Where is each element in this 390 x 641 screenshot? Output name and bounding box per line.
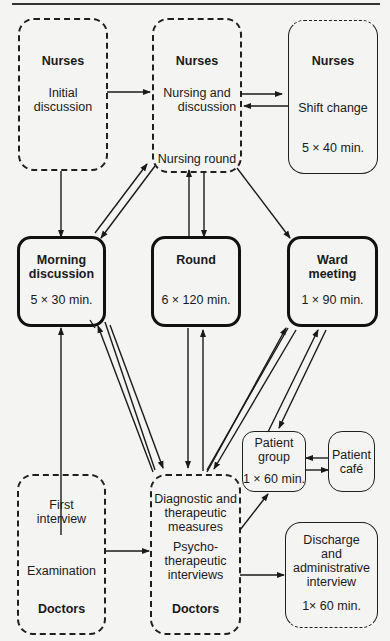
activity-label: Initial discussion [18,86,108,114]
title-line1: Ward [290,253,375,267]
line1: First [19,498,104,512]
title-label: Round [154,253,238,267]
duration-label: 6 × 120 min. [154,293,238,307]
duration-label: 1× 60 min. [286,599,377,613]
role-label: Doctors [19,602,104,616]
morning-discussion-box: Morning discussion 5 × 30 min. [17,236,106,327]
nurses-shift-change-box: Nurses Shift change 5 × 40 min. [288,20,378,174]
line4: interview [286,575,377,589]
title-line2: discussion [20,267,103,281]
line3: measures [152,520,239,534]
psy-line3: interviews [152,568,239,582]
ward-meeting-box: Ward meeting 1 × 90 min. [287,236,378,327]
duration-label: 5 × 40 min. [289,141,377,155]
nurses-nursing-box: Nurses Nursing and discussion Nursing ro… [152,18,242,173]
line1: Patient [243,436,305,450]
title-line2: meeting [290,267,375,281]
activity-label: Shift change [289,101,377,115]
line2: and [286,547,377,561]
round-box: Round 6 × 120 min. [151,236,241,327]
title-line1: Morning [20,253,103,267]
role-label: Nurses [289,54,377,68]
activity-line1: Nursing and [154,86,240,100]
examination-label: Examination [19,564,104,578]
psy-line2: therapeutic [152,554,239,568]
patient-group-box: Patient group 1 × 60 min. [242,431,306,492]
nursing-round-label: Nursing round [154,152,240,166]
duration-label: 1 × 90 min. [290,293,375,307]
duration-label: 5 × 30 min. [20,293,103,307]
line1: Diagnostic and [149,492,242,506]
line2: café [329,462,374,476]
nurses-initial-discussion-box: Nurses Initial discussion [18,18,108,171]
doctors-diagnostic-box: Diagnostic and therapeutic measures Psyc… [150,474,241,635]
line1: Discharge [286,533,377,547]
patient-cafe-box: Patient café [328,431,375,492]
line1: Patient [329,448,374,462]
psy-line1: Psycho- [152,540,239,554]
line2: therapeutic [152,506,239,520]
duration-label: 1 × 60 min. [240,472,308,486]
activity-line2: discussion [174,100,240,114]
line3: administrative [283,561,380,575]
line2: interview [19,512,104,526]
role-label: Nurses [20,54,106,68]
role-label: Doctors [152,602,239,616]
line2: group [243,450,305,464]
discharge-interview-box: Discharge and administrative interview 1… [285,522,378,628]
role-label: Nurses [154,54,240,68]
doctors-first-interview-box: First interview Examination Doctors [17,474,106,635]
